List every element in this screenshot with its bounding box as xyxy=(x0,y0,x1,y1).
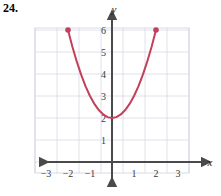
y-tick-label: 3 xyxy=(101,91,106,102)
curve-endpoint-dot xyxy=(153,27,159,33)
curve-endpoint-dot xyxy=(65,27,71,33)
x-tick-labels: −3 −2 −1 1 2 3 xyxy=(41,168,181,179)
x-tick-label: 3 xyxy=(176,168,181,179)
x-tick-label: −3 xyxy=(41,168,52,179)
x-tick-label: −1 xyxy=(85,168,96,179)
x-tick-label: 1 xyxy=(132,168,137,179)
graph-plot: x y −3 −2 −1 1 2 3 1 2 3 4 5 6 xyxy=(0,0,221,196)
x-axis-label: x xyxy=(207,156,213,168)
figure-container: 24. xyxy=(0,0,221,196)
x-tick-label: −2 xyxy=(63,168,74,179)
y-tick-label: 6 xyxy=(101,25,106,36)
y-axis-label: y xyxy=(111,3,117,15)
x-tick-label: 2 xyxy=(154,168,159,179)
y-tick-label: 1 xyxy=(101,135,106,146)
y-tick-label: 5 xyxy=(101,47,106,58)
y-tick-label: 4 xyxy=(101,69,106,80)
y-tick-labels: 1 2 3 4 5 6 xyxy=(101,25,106,146)
